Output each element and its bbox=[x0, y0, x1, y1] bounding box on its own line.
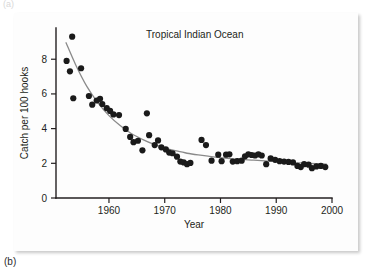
data-point bbox=[139, 147, 145, 153]
x-axis-title: Year bbox=[184, 219, 205, 230]
data-point bbox=[144, 110, 150, 116]
data-point bbox=[110, 111, 116, 117]
data-point bbox=[78, 65, 84, 71]
data-point bbox=[69, 34, 75, 40]
y-axis-title: Catch per 100 hooks bbox=[19, 67, 30, 159]
x-tick-label: 2000 bbox=[321, 205, 344, 216]
data-point bbox=[226, 151, 232, 157]
data-point bbox=[263, 161, 269, 167]
data-point bbox=[322, 164, 328, 170]
data-point bbox=[219, 158, 225, 164]
y-tick-label: 8 bbox=[41, 54, 47, 65]
y-tick-label: 4 bbox=[41, 123, 47, 134]
x-tick-label: 1980 bbox=[209, 205, 232, 216]
data-point bbox=[208, 158, 214, 164]
data-point bbox=[203, 142, 209, 148]
x-tick-label: 1990 bbox=[265, 205, 288, 216]
data-point bbox=[127, 134, 133, 140]
data-point bbox=[198, 137, 204, 143]
data-point bbox=[215, 152, 221, 158]
x-tick-label: 1960 bbox=[98, 205, 121, 216]
x-axis-ticks bbox=[109, 198, 332, 203]
data-point bbox=[259, 152, 265, 158]
data-point bbox=[155, 137, 161, 143]
data-point bbox=[135, 138, 141, 144]
data-point bbox=[70, 95, 76, 101]
plot-axes bbox=[56, 28, 332, 198]
data-point bbox=[63, 58, 69, 64]
data-point bbox=[116, 112, 122, 118]
figure-page: (a) 19601970198019902000 02468 Tropical … bbox=[0, 0, 371, 276]
y-tick-labels: 02468 bbox=[41, 54, 47, 204]
data-point bbox=[146, 132, 152, 138]
y-tick-label: 2 bbox=[41, 158, 47, 169]
chart-title: Tropical Indian Ocean bbox=[146, 29, 243, 40]
data-point bbox=[67, 68, 73, 74]
y-axis-ticks bbox=[51, 59, 56, 198]
scatter-plot: 19601970198019902000 02468 Tropical Indi… bbox=[0, 0, 371, 276]
data-points bbox=[63, 34, 328, 172]
y-tick-label: 6 bbox=[41, 88, 47, 99]
data-point bbox=[86, 93, 92, 99]
y-tick-label: 0 bbox=[41, 193, 47, 204]
data-point bbox=[187, 160, 193, 166]
data-point bbox=[123, 126, 129, 132]
x-tick-label: 1970 bbox=[154, 205, 177, 216]
panel-label: (b) bbox=[4, 256, 16, 267]
x-tick-labels: 19601970198019902000 bbox=[98, 205, 344, 216]
